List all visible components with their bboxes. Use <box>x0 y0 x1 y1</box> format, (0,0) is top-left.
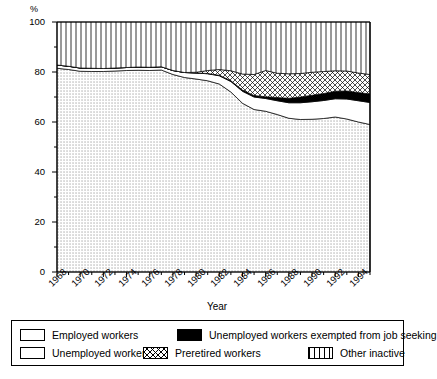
legend-label-other-inactive: Other inactive <box>340 347 405 359</box>
crosshatch-swatch <box>143 347 168 359</box>
legend-item-preretired-workers: Preretired workers <box>143 347 261 359</box>
legend-label-unemployed-exempted: Unemployed workers exempted from job see… <box>209 329 437 341</box>
legend-item-other-inactive: Other inactive <box>308 347 405 359</box>
legend-item-unemployed-exempted: Unemployed workers exempted from job see… <box>177 329 437 341</box>
y-tick-label: 20 <box>19 216 45 227</box>
dotted-swatch <box>20 329 45 341</box>
y-tick-label: 100 <box>19 16 45 27</box>
y-tick-label: 80 <box>19 66 45 77</box>
area-bands <box>57 22 370 272</box>
legend-label-unemployed-workers: Unemployed workers <box>52 347 151 359</box>
x-axis-title: Year <box>177 301 257 312</box>
vertical-lines-swatch <box>308 347 333 359</box>
chart-legend: Employed workers Unemployed workers exem… <box>11 320 404 366</box>
legend-label-preretired-workers: Preretired workers <box>175 347 261 359</box>
legend-label-employed-workers: Employed workers <box>52 329 138 341</box>
y-tick-label: 0 <box>19 266 45 277</box>
area-band <box>57 22 370 75</box>
white-swatch <box>20 347 45 359</box>
y-tick-label: 40 <box>19 166 45 177</box>
y-tick-label: 60 <box>19 116 45 127</box>
black-swatch <box>177 329 202 341</box>
legend-item-employed-workers: Employed workers <box>20 329 138 341</box>
legend-item-unemployed-workers: Unemployed workers <box>20 347 151 359</box>
